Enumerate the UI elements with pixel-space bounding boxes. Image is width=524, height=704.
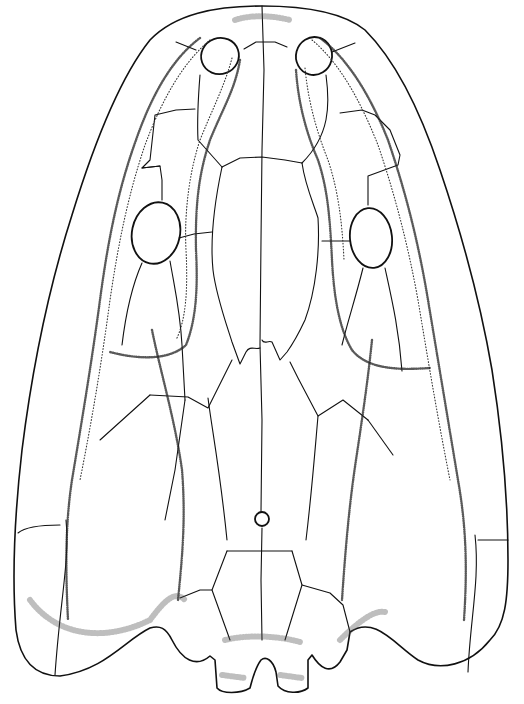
left-parietal-border: [208, 398, 227, 540]
left-jugal-inner-suture: [122, 263, 142, 345]
right-supratemporal-suture: [290, 362, 368, 420]
left-intertemporal-line: [165, 400, 185, 520]
nasal-anterior-suture: [244, 42, 287, 49]
right-posterior-stippling: [340, 612, 385, 640]
right-orbit: [347, 206, 395, 270]
left-condyle-stippling: [222, 675, 245, 678]
left-frontal-border: [212, 167, 260, 364]
right-cheek-suture: [468, 535, 476, 672]
left-quadratojugal-suture: [18, 525, 60, 533]
left-squamosal-suture: [100, 395, 150, 440]
right-postparietal-border: [285, 551, 302, 640]
skull-illustration: [0, 0, 524, 704]
right-postfrontal-suture: [385, 268, 402, 371]
right-parietal-border: [306, 416, 318, 540]
left-supraorbital-sulcus-outer: [176, 58, 232, 340]
left-jugal-suture: [142, 166, 160, 168]
right-frontal-border: [262, 163, 318, 360]
right-supraorbital-sulcus-outer: [305, 68, 344, 260]
occipital-stippling: [225, 636, 300, 642]
right-lacrimal-suture: [340, 110, 400, 205]
right-naris: [292, 33, 337, 79]
right-condyle-stippling: [280, 675, 302, 678]
parietal-foramen: [255, 512, 269, 526]
left-supraorbital-sulcus: [110, 60, 240, 357]
right-squamosal-suture: [368, 420, 393, 455]
right-temporal-sulcus: [342, 340, 372, 600]
left-temporal-sulcus: [152, 330, 184, 600]
left-postfrontal-suture: [170, 261, 185, 400]
midline-suture: [260, 6, 264, 512]
left-lacrimal-suture: [142, 109, 195, 200]
left-cheek-suture: [55, 520, 67, 675]
left-supratemporal-suture: [150, 360, 232, 408]
left-orbit: [126, 198, 186, 269]
skull-drawing: [0, 0, 524, 704]
left-postparietal-border: [212, 551, 230, 640]
midline-suture-posterior: [261, 528, 262, 640]
